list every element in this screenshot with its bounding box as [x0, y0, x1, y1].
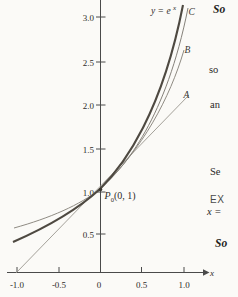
x-tick-0: 0 [97, 280, 102, 290]
curve-equation-exponent: x [172, 4, 177, 12]
side-text-solution-2: So [215, 237, 227, 249]
y-tick-2.5: 2.5 [83, 58, 95, 68]
y-tick-3.0: 3.0 [83, 13, 95, 23]
x-tick-0.5: 0.5 [136, 280, 148, 290]
curve-b [14, 50, 184, 228]
curve-equation-label: y = e [150, 6, 171, 16]
side-text-example: EX [210, 194, 224, 205]
side-text-solution-1: So [213, 3, 225, 15]
label-c: C [189, 7, 196, 17]
point-p0 [99, 188, 103, 192]
side-text-an: an [210, 99, 220, 110]
side-text-x-equals: x = [207, 206, 221, 217]
label-a: A [183, 90, 190, 100]
p0-label-coordinates: (0, 1) [114, 190, 136, 202]
x-tick-1.0: 1.0 [178, 280, 190, 290]
side-text-so: so [209, 64, 218, 75]
x-tick--0.5: -0.5 [52, 280, 67, 290]
exp-curve [13, 5, 183, 242]
curve-c [100, 8, 188, 189]
x-axis-label: x [209, 268, 214, 278]
p0-label: P [104, 190, 111, 201]
x-tick--1.0: -1.0 [10, 280, 25, 290]
textbook-figure-page: 3.0 2.5 2.0 1.5 1.0 0.5 -1.0 -0.5 0 0.5 … [0, 0, 238, 297]
exp-curve-plot: 3.0 2.5 2.0 1.5 1.0 0.5 -1.0 -0.5 0 0.5 … [0, 0, 238, 297]
side-text-se: Se [210, 166, 221, 177]
x-axis-arrow-icon [203, 269, 210, 276]
y-tick-1.5: 1.5 [83, 145, 95, 155]
line-a [16, 95, 189, 273]
label-b: B [185, 45, 191, 55]
y-tick-0.5: 0.5 [83, 230, 95, 240]
y-tick-2.0: 2.0 [83, 101, 95, 111]
